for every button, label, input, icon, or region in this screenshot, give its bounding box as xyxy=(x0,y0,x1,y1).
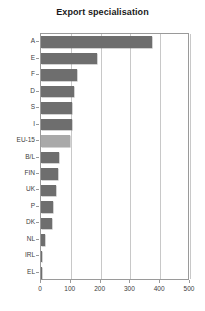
y-axis-tick-mark xyxy=(36,58,39,59)
x-axis-tick-mark xyxy=(100,280,101,283)
y-axis-tick-mark xyxy=(36,239,39,240)
chart-title: Export specialisation xyxy=(0,7,205,17)
x-axis-tick-mark xyxy=(189,280,190,283)
y-axis-tick-label: S xyxy=(31,103,35,111)
bar xyxy=(41,267,42,279)
y-axis-tick-mark xyxy=(36,124,39,125)
y-axis-tick-mark xyxy=(36,206,39,207)
y-axis-tick-label: P xyxy=(31,202,35,210)
x-axis-tick-label: 100 xyxy=(64,285,75,292)
y-axis-tick-label: IRL xyxy=(25,251,35,259)
bars-container xyxy=(41,34,188,279)
y-axis-tick-mark xyxy=(36,189,39,190)
y-axis-tick-mark xyxy=(36,91,39,92)
bar xyxy=(41,119,72,131)
y-axis-tick-mark xyxy=(36,41,39,42)
bar xyxy=(41,53,97,65)
bar xyxy=(41,36,152,48)
y-axis-tick-label: F xyxy=(31,70,35,78)
chart-figure: Export specialisation AEFDSIEU-15B/LFINU… xyxy=(0,0,205,311)
y-axis-tick-label: E xyxy=(31,54,35,62)
x-axis-tick-mark xyxy=(40,280,41,283)
bar xyxy=(41,251,42,263)
y-axis-tick-label: A xyxy=(31,37,35,45)
y-axis-tick-label: I xyxy=(33,120,35,128)
x-axis-tick-label: 0 xyxy=(38,285,42,292)
bar xyxy=(41,218,52,230)
y-axis-tick-mark xyxy=(36,140,39,141)
x-axis: 0100200300400500 xyxy=(0,280,205,311)
bar xyxy=(41,234,45,246)
x-axis-tick-mark xyxy=(159,280,160,283)
y-axis-tick-label: D xyxy=(30,87,35,95)
y-axis-tick-label: UK xyxy=(26,185,35,193)
y-axis-tick-label: DK xyxy=(26,218,35,226)
bar xyxy=(41,135,70,147)
y-axis-tick-mark xyxy=(36,255,39,256)
y-axis-tick-label: FIN xyxy=(25,169,35,177)
bar xyxy=(41,152,59,164)
y-axis-tick-label: NL xyxy=(27,235,35,243)
bar xyxy=(41,102,72,114)
x-axis-tick-label: 400 xyxy=(154,285,165,292)
y-axis-labels: AEFDSIEU-15B/LFINUKPDKNLIRLEL xyxy=(0,33,38,280)
bar xyxy=(41,185,56,197)
y-axis-tick-mark xyxy=(36,107,39,108)
y-axis-tick-mark xyxy=(36,222,39,223)
x-axis-tick-mark xyxy=(129,280,130,283)
x-axis-tick-label: 200 xyxy=(94,285,105,292)
y-axis-tick-label: EL xyxy=(27,268,35,276)
y-axis-tick-label: B/L xyxy=(25,153,35,161)
y-axis-tick-mark xyxy=(36,173,39,174)
y-axis-tick-mark xyxy=(36,272,39,273)
y-axis-tick-mark xyxy=(36,74,39,75)
gridline-500 xyxy=(190,34,191,279)
y-axis-tick-label: EU-15 xyxy=(17,136,35,144)
x-axis-tick-label: 500 xyxy=(184,285,195,292)
bar xyxy=(41,86,74,98)
bar xyxy=(41,201,53,213)
x-axis-tick-label: 300 xyxy=(124,285,135,292)
bar xyxy=(41,69,77,81)
bar xyxy=(41,168,58,180)
plot-area xyxy=(40,33,189,280)
x-axis-tick-mark xyxy=(70,280,71,283)
y-axis-tick-mark xyxy=(36,157,39,158)
